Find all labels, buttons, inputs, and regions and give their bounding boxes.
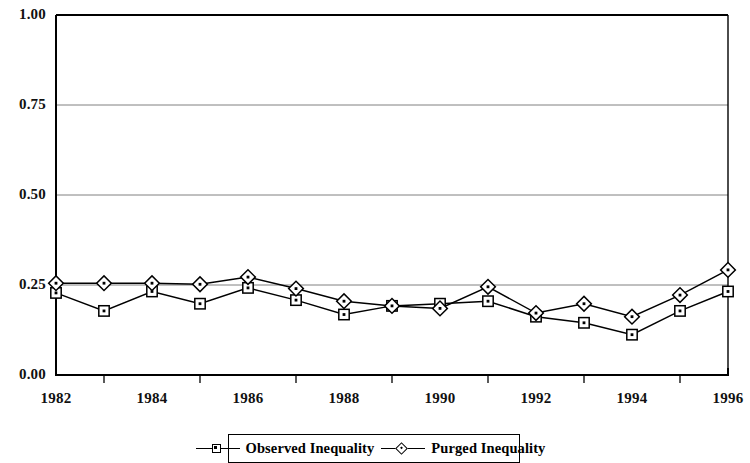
chart-figure: 0.000.250.500.751.00 1982198419861988199…: [0, 0, 750, 463]
legend-label-purged: Purged Inequality: [425, 440, 552, 457]
x-tick-label: 1990: [410, 391, 470, 406]
data-point-center: [103, 310, 106, 313]
data-point-center: [199, 302, 202, 305]
x-axis-ticks: [104, 375, 680, 383]
x-tick-label: 1992: [506, 391, 566, 406]
data-point-center: [727, 268, 730, 271]
x-tick-label: 1988: [314, 391, 374, 406]
data-point-center: [487, 285, 490, 288]
y-tick-label: 0.25: [0, 277, 46, 292]
data-point-center: [247, 286, 250, 289]
legend-label-observed: Observed Inequality: [240, 440, 382, 457]
y-tick-label: 0.00: [0, 367, 46, 382]
legend-item-purged-inequality: Purged Inequality: [381, 440, 552, 457]
x-tick-label: 1996: [698, 391, 750, 406]
diamond-marker-icon: [381, 442, 425, 456]
data-point-center: [583, 302, 586, 305]
y-tick-label: 1.00: [0, 7, 46, 22]
y-tick-label: 0.75: [0, 97, 46, 112]
data-point-center: [343, 313, 346, 316]
data-point-center: [295, 299, 298, 302]
data-point-center: [535, 312, 538, 315]
data-point-center: [199, 283, 202, 286]
legend-item-observed-inequality: Observed Inequality: [196, 440, 382, 457]
data-point-center: [391, 304, 394, 307]
data-point-center: [55, 282, 58, 285]
x-tick-label: 1982: [26, 391, 86, 406]
data-point-center: [295, 287, 298, 290]
x-tick-label: 1986: [218, 391, 278, 406]
data-point-center: [727, 290, 730, 293]
data-point-center: [679, 310, 682, 313]
gridlines: [56, 15, 728, 285]
y-tick-label: 0.50: [0, 187, 46, 202]
data-point-center: [679, 294, 682, 297]
data-point-center: [583, 321, 586, 324]
data-point-center: [631, 315, 634, 318]
data-point-center: [487, 300, 490, 303]
data-point-center: [247, 276, 250, 279]
chart-legend: Observed Inequality Purged Inequality: [228, 434, 520, 463]
data-point-center: [631, 333, 634, 336]
square-marker-icon: [196, 442, 240, 456]
x-tick-label: 1984: [122, 391, 182, 406]
data-point-center: [55, 292, 58, 295]
x-tick-label: 1994: [602, 391, 662, 406]
data-series-layer: [49, 263, 736, 340]
data-point-center: [103, 282, 106, 285]
data-point-center: [343, 300, 346, 303]
data-point-center: [439, 307, 442, 310]
data-point-center: [151, 282, 154, 285]
